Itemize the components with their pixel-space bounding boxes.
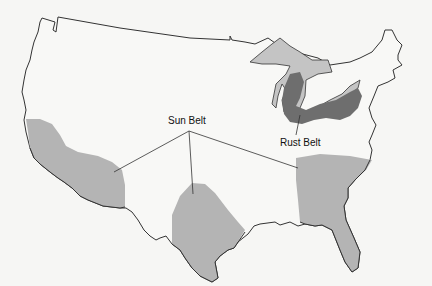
rust-belt-label: Rust Belt [280, 137, 321, 148]
sun-belt-southeast [296, 154, 372, 272]
sun-belt-label: Sun Belt [168, 115, 206, 126]
us-map [0, 0, 432, 286]
